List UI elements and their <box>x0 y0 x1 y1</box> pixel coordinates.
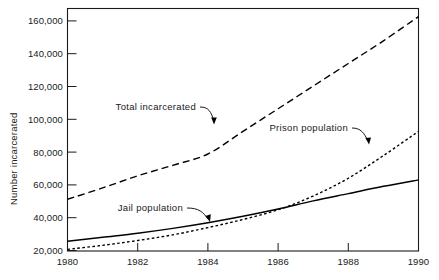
annotation-label-prison-population: Prison population <box>269 122 348 133</box>
chart-background <box>0 0 439 280</box>
y-tick-label: 120,000 <box>28 81 63 92</box>
annotation-label-jail-population: Jail population <box>118 202 183 213</box>
y-tick-label: 20,000 <box>33 245 63 256</box>
x-tick-group: 1990 <box>408 256 430 267</box>
x-tick-group: 1980 <box>57 256 79 267</box>
x-tick-label: 1986 <box>267 256 289 267</box>
annotation-label-total-incarcerated: Total incarcerated <box>116 101 196 112</box>
y-tick-label: 40,000 <box>33 212 63 223</box>
y-axis-title: Number incarcerated <box>8 112 19 205</box>
y-axis-title-text: Number incarcerated <box>8 112 19 205</box>
y-tick-label: 60,000 <box>33 179 63 190</box>
y-tick-label: 140,000 <box>28 48 63 59</box>
y-tick-label: 160,000 <box>28 15 63 26</box>
x-tick-label: 1980 <box>57 256 79 267</box>
y-tick-label: 100,000 <box>28 114 63 125</box>
incarceration-line-chart: Number incarcerated 20,000 40,000 60,000… <box>0 0 439 280</box>
x-tick-label: 1982 <box>127 256 149 267</box>
x-tick-label: 1990 <box>408 256 430 267</box>
x-tick-label: 1988 <box>338 256 360 267</box>
x-tick-label: 1984 <box>197 256 219 267</box>
y-tick-label: 80,000 <box>33 147 63 158</box>
chart-figure: Number incarcerated 20,000 40,000 60,000… <box>0 0 439 280</box>
